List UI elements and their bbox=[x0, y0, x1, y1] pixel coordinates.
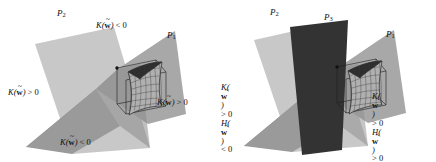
curvature-line-k: K(w) > 0 bbox=[372, 92, 383, 128]
curvature-label-k-negative-top: K(w) < 0 bbox=[96, 21, 127, 30]
right-diagram-svg bbox=[218, 0, 436, 162]
plane-label-p3: P3 bbox=[324, 13, 333, 23]
curvature-label-left-block: K(w) > 0 H(w) < 0 bbox=[221, 83, 232, 154]
intersection-point-left bbox=[115, 66, 118, 69]
plane-label-p2: P2 bbox=[57, 9, 66, 19]
plane-label-p1: P1 bbox=[167, 31, 176, 41]
curvature-label-right-block: K(w) > 0 H(w) > 0 bbox=[372, 92, 383, 162]
figure-container: P2 P1 K(w) < 0 K(w) > 0 K(w) > 0 K(w) < … bbox=[0, 0, 436, 162]
right-diagram-panel: P2 P3 P1 K(w) > 0 H(w) < 0 K(w) > 0 H(w)… bbox=[218, 0, 436, 162]
curvature-label-k-negative-bottom: K(w) < 0 bbox=[60, 138, 91, 147]
plane-label-p1: P1 bbox=[386, 30, 395, 40]
curvature-label-k-positive-right: K(w) > 0 bbox=[157, 98, 188, 107]
plane-label-p2: P2 bbox=[270, 8, 279, 18]
curvature-label-k-positive-left: K(w) > 0 bbox=[8, 88, 39, 97]
curvature-line-k: K(w) > 0 bbox=[221, 83, 232, 119]
curvature-line-h: H(w) < 0 bbox=[221, 119, 232, 155]
left-diagram-panel: P2 P1 K(w) < 0 K(w) > 0 K(w) > 0 K(w) < … bbox=[0, 0, 218, 162]
intersection-point-right bbox=[335, 65, 338, 68]
curvature-line-h: H(w) > 0 bbox=[372, 128, 383, 162]
